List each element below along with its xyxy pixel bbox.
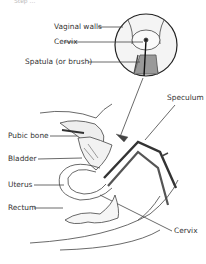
label-rectum: Rectum: [8, 204, 36, 211]
label-vaginal-walls: Vaginal walls: [54, 23, 102, 30]
label-cervix: Cervix: [174, 227, 198, 234]
label-bladder: Bladder: [8, 155, 37, 162]
label-cervix-inset: Cervix: [54, 38, 78, 45]
inset-detail: [115, 14, 177, 76]
label-pubic-bone: Pubic bone: [8, 132, 49, 139]
label-speculum: Speculum: [167, 94, 204, 101]
label-uterus: Uterus: [8, 181, 32, 188]
label-spatula: Spatula (or brush): [25, 58, 92, 65]
